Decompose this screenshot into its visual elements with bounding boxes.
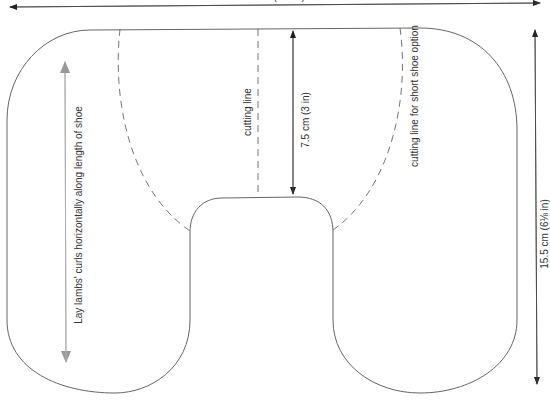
width-dimension-label: 24.5 cm (9⅝ in) bbox=[235, 0, 304, 2]
width-dimension-arrow bbox=[10, 3, 540, 7]
notch-depth-label: 7.5 cm (3 in) bbox=[300, 92, 311, 148]
grain-direction-arrow bbox=[65, 62, 66, 362]
cutting-line-label: cutting line bbox=[242, 88, 253, 136]
short-shoe-cutting-line-right bbox=[333, 28, 402, 230]
short-shoe-cutting-line-label: cutting line for short shoe option bbox=[409, 25, 420, 167]
pattern-outline bbox=[7, 28, 517, 393]
height-dimension-label: 15.5 cm (6⅛ in) bbox=[539, 199, 550, 268]
height-dimension-arrow bbox=[535, 30, 537, 384]
grain-instruction-label: Lay lambs' curls horizontally along leng… bbox=[73, 106, 84, 324]
short-shoe-cutting-line-left bbox=[118, 29, 190, 231]
